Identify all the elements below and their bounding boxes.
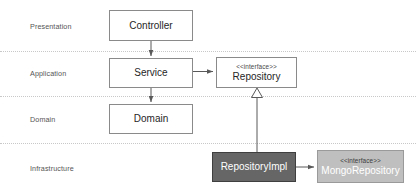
layer-label-domain: Domain — [30, 116, 55, 123]
node-repository-impl-title: RepositoryImpl — [221, 161, 288, 172]
layer-label-application: Application — [30, 70, 66, 77]
node-controller-title: Controller — [129, 20, 172, 31]
node-repository-title: Repository — [233, 71, 281, 82]
node-repository[interactable]: <<interface>> Repository — [216, 57, 297, 88]
node-domain[interactable]: Domain — [109, 104, 193, 134]
layer-label-infrastructure: Infrastructure — [30, 165, 74, 172]
layer-divider-application-domain — [0, 96, 416, 97]
node-repository-stereotype: <<interface>> — [236, 63, 277, 70]
node-controller[interactable]: Controller — [109, 10, 193, 41]
architecture-diagram: Presentation Application Domain Infrastr… — [0, 0, 416, 195]
node-service-title: Service — [134, 67, 167, 78]
layer-divider-presentation-application — [0, 51, 416, 52]
node-repository-impl[interactable]: RepositoryImpl — [212, 152, 296, 182]
layer-label-presentation: Presentation — [30, 23, 72, 30]
node-mongo-repository[interactable]: <<interface>> MongoRepository — [317, 150, 404, 183]
node-domain-title: Domain — [134, 113, 168, 124]
node-mongo-repository-title: MongoRepository — [321, 165, 399, 176]
layer-divider-domain-infrastructure — [0, 143, 416, 144]
node-mongo-repository-stereotype: <<interface>> — [340, 157, 381, 164]
node-service[interactable]: Service — [109, 58, 193, 88]
